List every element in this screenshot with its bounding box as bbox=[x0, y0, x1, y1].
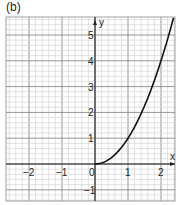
x-tick-label: 0 bbox=[89, 167, 95, 178]
y-tick-label: −1 bbox=[84, 185, 96, 196]
x-axis-label: x bbox=[170, 151, 175, 162]
y-tick-label: 4 bbox=[88, 56, 94, 67]
x-tick-label: −2 bbox=[23, 167, 35, 178]
y-axis-arrow-icon bbox=[93, 20, 97, 25]
function-curve bbox=[95, 18, 174, 164]
x-tick-label: 2 bbox=[158, 167, 164, 178]
y-tick-label: 3 bbox=[88, 82, 94, 93]
y-tick-label: 2 bbox=[88, 107, 94, 118]
x-tick-label: 1 bbox=[125, 167, 131, 178]
y-axis-label: y bbox=[99, 17, 104, 28]
x-tick-label: −1 bbox=[56, 167, 68, 178]
y-tick-label: 5 bbox=[88, 30, 94, 41]
function-graph: xy−2−1012−112345 bbox=[0, 0, 179, 205]
y-tick-label: 1 bbox=[88, 133, 94, 144]
